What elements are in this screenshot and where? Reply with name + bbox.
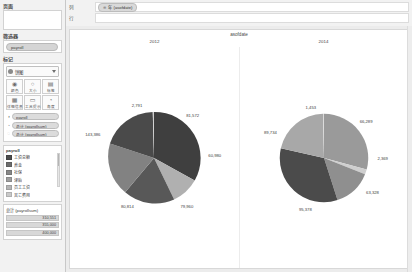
- size-legend-title: 总计 (payrollsum): [6, 207, 59, 213]
- column-header-row: 2012 2014: [70, 39, 408, 47]
- legend-swatch: [6, 155, 12, 160]
- pie-label-60980: 60,980: [208, 152, 221, 157]
- columns-shelf-dropzone[interactable]: ⊕ 年 (asofdate): [95, 2, 409, 12]
- legend-label: 养金: [14, 162, 22, 168]
- columns-shelf: 列 ⊕ 年 (asofdate): [69, 2, 409, 12]
- mark-pill-angle-total[interactable]: 总计 (payrollsum): [12, 122, 59, 129]
- legend-label: 其它费用: [14, 192, 30, 198]
- legend-label: 员工工资: [14, 184, 30, 190]
- pages-shelf-dropzone[interactable]: [3, 10, 62, 30]
- rows-shelf-label: 行: [69, 15, 95, 21]
- pages-shelf-title: 页面: [0, 0, 65, 10]
- legend-swatch: [6, 185, 12, 190]
- marks-card-title: 标记: [0, 53, 65, 63]
- legend-item[interactable]: 社保: [6, 169, 59, 175]
- pie-label-81572: 81,572: [186, 113, 199, 118]
- label-pill-icon: ◌: [6, 131, 11, 136]
- mark-button-detail-label: 详细信息: [7, 104, 23, 109]
- size-legend-bar: 310,551: [6, 215, 59, 221]
- color-pill-icon: ◑: [6, 114, 11, 119]
- pie-panel-2014: 1,453 66,289 2,369 63,328 95,378 89,734: [239, 47, 409, 268]
- worksheet: 列 ⊕ 年 (asofdate) 行 asofdate 2012 2014: [66, 0, 412, 272]
- legend-item[interactable]: 养金: [6, 162, 59, 168]
- columns-pill-label: 年 (asofdate): [108, 4, 132, 10]
- columns-pill-year-asofdate[interactable]: ⊕ 年 (asofdate): [98, 3, 137, 12]
- pie-svg-2012: [106, 110, 202, 206]
- column-header-2014[interactable]: 2014: [239, 39, 408, 47]
- rows-shelf-dropzone[interactable]: [95, 13, 409, 23]
- mark-pill-row-label: ◌ 总计 (payrollsum): [6, 130, 59, 137]
- pie-svg-2014: [278, 112, 370, 204]
- legend-swatch: [6, 177, 12, 182]
- angle-pill-icon: ◔: [6, 123, 11, 128]
- mark-type-dropdown[interactable]: 饼图: [6, 66, 59, 77]
- legend-item[interactable]: 员工工资: [6, 184, 59, 190]
- view-scrollbar[interactable]: [407, 26, 412, 272]
- sidebar: 页面 筛选器 payroll 标记 饼图 ◉ 颜色 ○ 大小: [0, 0, 66, 272]
- marks-card: 饼图 ◉ 颜色 ○ 大小 ▤ 标签 ▦ 详细信息: [3, 63, 62, 142]
- mark-button-detail[interactable]: ▦ 详细信息: [6, 95, 23, 110]
- mark-pill-payroll[interactable]: payroll: [12, 113, 59, 120]
- pie-chart-2012[interactable]: 2,791 81,572 60,980 79,960 80,814 143,38…: [106, 110, 202, 206]
- size-legend-bar: 400,000: [6, 230, 59, 236]
- pie-label-66289: 66,289: [360, 118, 373, 123]
- pie-label-1453: 1,453: [306, 104, 316, 109]
- mark-button-size-label: 大小: [29, 88, 37, 93]
- filters-shelf-dropzone[interactable]: payroll: [3, 40, 62, 53]
- detail-icon: ▦: [12, 97, 18, 103]
- expand-plus-icon[interactable]: ⊕: [103, 5, 106, 10]
- mark-button-color[interactable]: ◉ 颜色: [6, 79, 23, 94]
- pie-label-63328: 63,328: [366, 190, 379, 195]
- legend-scrollbar[interactable]: [57, 153, 60, 187]
- mark-button-tooltip[interactable]: ▭ 工具提示: [24, 95, 41, 110]
- size-legend-bar: 355,000: [6, 222, 59, 228]
- mark-button-tooltip-label: 工具提示: [25, 104, 41, 109]
- column-header-2012[interactable]: 2012: [70, 39, 239, 47]
- mark-pill-label-total[interactable]: 总计 (payrollsum): [12, 130, 59, 137]
- mark-type-label: 饼图: [15, 69, 52, 75]
- legend-item[interactable]: 其它费用: [6, 192, 59, 198]
- marks-card-pills: ◑ payroll ◔ 总计 (payrollsum) ◌ 总计 (payrol…: [6, 113, 59, 137]
- legend-item[interactable]: 工资总额: [6, 154, 59, 160]
- color-legend-title: payroll: [6, 148, 59, 153]
- legend-swatch: [6, 192, 12, 197]
- pie-label-80814: 80,814: [121, 204, 134, 209]
- chevron-down-icon[interactable]: [52, 70, 56, 73]
- legend-item[interactable]: 津贴: [6, 177, 59, 183]
- columns-shelf-label: 列: [69, 4, 95, 10]
- pie-label-2791: 2,791: [132, 102, 142, 107]
- legend-swatch: [6, 162, 12, 167]
- mark-button-size[interactable]: ○ 大小: [24, 79, 41, 94]
- legend-label: 社保: [14, 169, 22, 175]
- size-icon: ○: [31, 81, 35, 87]
- pie-chart-2014[interactable]: 1,453 66,289 2,369 63,328 95,378 89,734: [278, 112, 370, 204]
- view-title: asofdate: [70, 30, 408, 39]
- mark-pill-row-angle: ◔ 总计 (payrollsum): [6, 122, 59, 129]
- pie-label-143386: 143,386: [85, 131, 100, 136]
- mark-buttons-grid: ◉ 颜色 ○ 大小 ▤ 标签 ▦ 详细信息 ▭ 工具提示: [6, 79, 59, 110]
- mark-button-label-label: 标签: [47, 88, 55, 93]
- pie-label-2369: 2,369: [377, 155, 387, 160]
- filter-pill-payroll[interactable]: payroll: [6, 43, 58, 51]
- pie-panel-2012: 2,791 81,572 60,980 79,960 80,814 143,38…: [70, 47, 239, 268]
- pie-label-89734: 89,734: [264, 129, 277, 134]
- angle-icon: ◔: [49, 97, 53, 103]
- size-legend-value: 400,000: [42, 231, 56, 235]
- label-icon: ▤: [48, 81, 54, 87]
- mark-button-angle-label: 角度: [47, 104, 55, 109]
- tableau-window: 页面 筛选器 payroll 标记 饼图 ◉ 颜色 ○ 大小: [0, 0, 412, 272]
- pie-panels: 2,791 81,572 60,980 79,960 80,814 143,38…: [70, 47, 408, 268]
- rows-shelf: 行: [69, 13, 409, 23]
- pie-label-95378: 95,378: [299, 207, 312, 212]
- pie-label-79960: 79,960: [180, 204, 193, 209]
- color-icon: ◉: [12, 81, 17, 87]
- mark-button-color-label: 颜色: [11, 88, 19, 93]
- mark-button-label[interactable]: ▤ 标签: [42, 79, 59, 94]
- legend-label: 工资总额: [14, 154, 30, 160]
- shelf-area: 列 ⊕ 年 (asofdate) 行: [66, 0, 412, 27]
- legend-swatch: [6, 170, 12, 175]
- legend-label: 津贴: [14, 177, 22, 183]
- size-legend-card: 总计 (payrollsum) 310,551 355,000 400,000: [3, 204, 62, 240]
- pie-mark-icon: [8, 69, 13, 74]
- mark-button-angle[interactable]: ◔ 角度: [42, 95, 59, 110]
